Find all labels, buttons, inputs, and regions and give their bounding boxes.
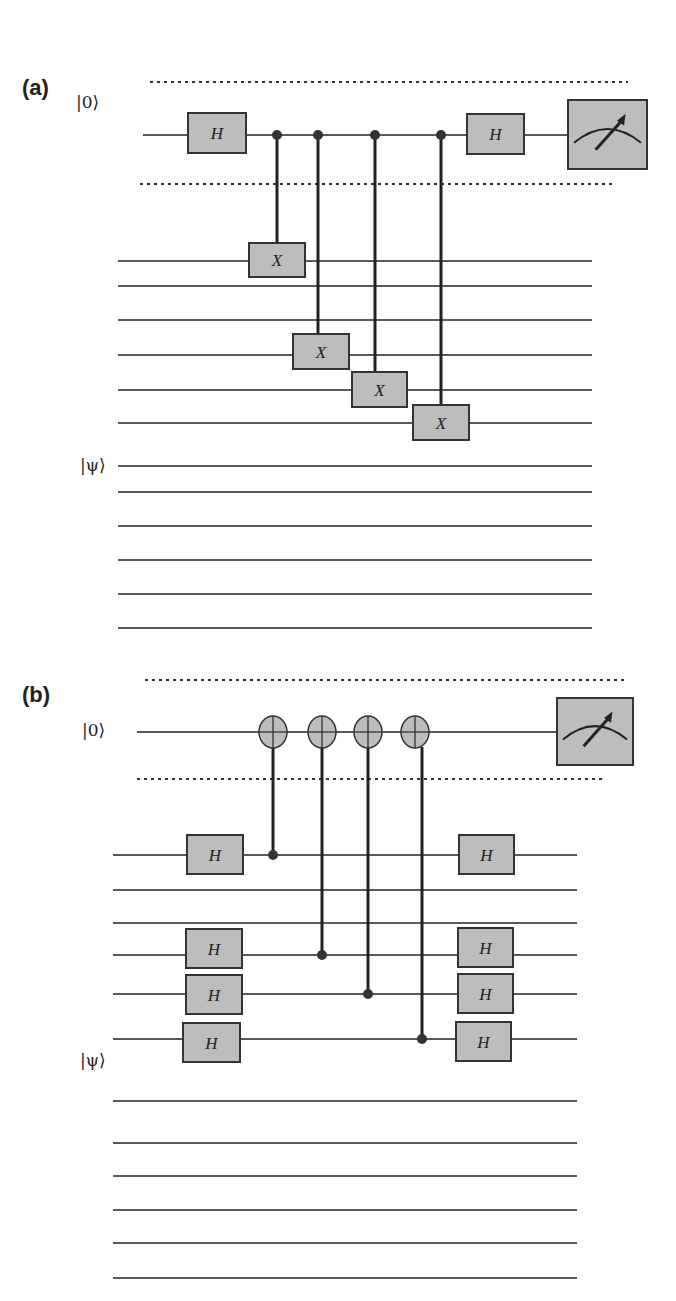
gate-label: H [488,125,503,144]
hadamard-gate: H [467,114,524,154]
gate-label: H [479,846,494,865]
control-dot-icon [436,130,446,140]
ancilla-ket-label: |0⟩ [82,720,105,740]
gate-label: H [207,940,222,959]
gate-label: X [315,343,327,362]
gate-label: H [476,1033,491,1052]
ancilla-ket-label: |0⟩ [76,92,99,112]
circuit-panel-a: HHXXXX [118,82,647,628]
measurement-meter-icon [568,100,647,169]
gate-label: H [478,985,493,1004]
panel-label: (b) [22,682,50,708]
data-register-ket-label: |ψ⟩ [80,1050,106,1070]
control-dot-icon [272,130,282,140]
circuit-canvas: HHXXXXHHHHHHHH [0,0,676,1301]
circuit-panel-b: HHHHHHHH [113,680,633,1278]
pauli-x-gate: X [249,243,305,277]
gate-label: H [478,939,493,958]
panel-label: (a) [22,75,49,101]
control-dot-icon [268,850,278,860]
hadamard-gate: H [458,928,513,967]
gate-label: H [208,846,223,865]
gate-label: X [373,381,385,400]
control-dot-icon [317,950,327,960]
hadamard-gate: H [456,1022,511,1061]
hadamard-gate: H [458,974,513,1013]
hadamard-gate: H [188,113,246,153]
pauli-x-gate: X [352,372,407,407]
hadamard-gate: H [187,835,243,874]
hadamard-gate: H [459,835,514,874]
gate-label: X [435,414,447,433]
hadamard-gate: H [183,1023,240,1062]
gate-label: H [210,124,225,143]
data-register-ket-label: |ψ⟩ [80,455,106,475]
control-dot-icon [363,989,373,999]
pauli-x-gate: X [293,334,349,369]
control-dot-icon [370,130,380,140]
gate-label: X [271,251,283,270]
control-dot-icon [313,130,323,140]
hadamard-gate: H [186,975,242,1014]
gate-label: H [207,986,222,1005]
pauli-x-gate: X [413,405,469,440]
hadamard-gate: H [186,929,242,968]
control-dot-icon [417,1034,427,1044]
gate-label: H [204,1034,219,1053]
measurement-meter-icon [557,698,633,765]
